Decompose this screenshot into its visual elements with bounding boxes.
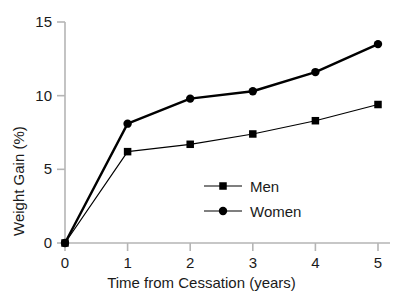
chart-container: 051015 012345 MenWomen Weight Gain (%) T…	[0, 0, 403, 299]
legend-label: Women	[250, 203, 301, 220]
data-point	[186, 94, 194, 102]
series-men	[61, 101, 382, 247]
series-women	[61, 40, 382, 247]
legend-marker	[219, 207, 227, 215]
data-point	[311, 68, 319, 76]
x-tick-label: 3	[249, 254, 257, 271]
x-axis-label: Time from Cessation (years)	[0, 274, 403, 291]
data-point	[124, 148, 132, 156]
y-axis-label: Weight Gain (%)	[10, 126, 27, 236]
axes-group	[65, 22, 390, 243]
x-tick-label: 1	[123, 254, 131, 271]
x-tick-label: 5	[374, 254, 382, 271]
line-chart: 051015 012345 MenWomen	[0, 0, 403, 299]
data-point	[249, 87, 257, 95]
y-axis-ticks: 051015	[35, 13, 65, 251]
data-point	[123, 119, 131, 127]
y-tick-label: 0	[44, 234, 52, 251]
y-tick-label: 5	[44, 160, 52, 177]
x-tick-label: 2	[186, 254, 194, 271]
y-tick-label: 10	[35, 87, 52, 104]
chart-legend: MenWomen	[204, 178, 301, 220]
data-point	[61, 239, 69, 247]
data-point	[312, 117, 320, 125]
data-point	[249, 130, 256, 138]
data-point	[374, 40, 382, 48]
legend-item-women[interactable]: Women	[204, 203, 301, 220]
legend-item-men[interactable]: Men	[204, 178, 279, 195]
x-tick-label: 0	[61, 254, 69, 271]
legend-label: Men	[250, 178, 279, 195]
x-axis-ticks: 012345	[61, 243, 382, 271]
data-point	[186, 141, 194, 149]
legend-marker	[219, 182, 227, 190]
y-tick-label: 15	[35, 13, 52, 30]
x-tick-label: 4	[311, 254, 319, 271]
data-series-layer	[61, 40, 382, 247]
series-line	[65, 105, 378, 243]
data-point	[374, 101, 382, 109]
